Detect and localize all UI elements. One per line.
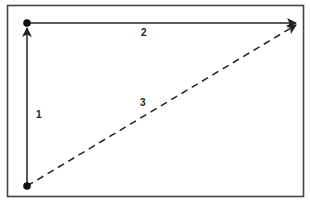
bottom-left-point bbox=[23, 182, 31, 190]
diagram-frame bbox=[8, 6, 304, 197]
vector-2-label: 2 bbox=[141, 27, 147, 38]
vector-3-label: 3 bbox=[140, 97, 146, 108]
top-left-point bbox=[23, 19, 31, 27]
vector-1-label: 1 bbox=[36, 109, 42, 120]
vector-diagram: 1 2 3 bbox=[0, 0, 310, 201]
